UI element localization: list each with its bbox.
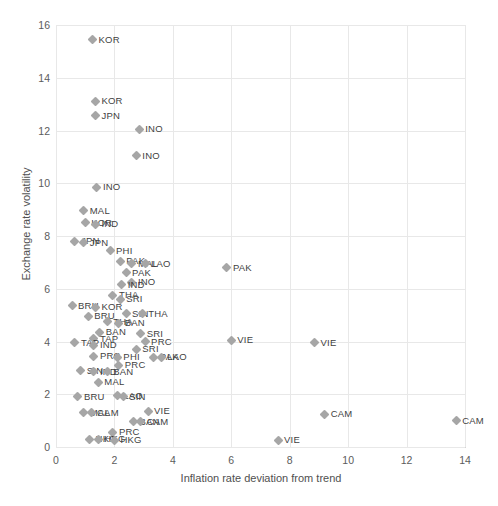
x-tick-label: 14 [445, 454, 485, 466]
figure-container: Exchange rate volatility Inflation rate … [0, 0, 498, 506]
data-point-label: HKG [120, 434, 141, 445]
data-point-label: SRI [142, 343, 158, 354]
y-tick-label: 0 [8, 442, 50, 452]
y-axis-tick-labels: 0246810121416 [0, 0, 50, 506]
data-point-label: SIN [129, 391, 145, 402]
data-point-label: CAM [331, 408, 353, 419]
data-point[interactable] [310, 338, 320, 348]
data-point-label: BRU [84, 391, 105, 402]
data-point-label: INO [103, 181, 121, 192]
data-point-label: VIE [237, 334, 253, 345]
data-point-label: BAN [113, 366, 133, 377]
data-point[interactable] [83, 311, 93, 321]
y-tick-label: 6 [8, 284, 50, 294]
data-point[interactable] [115, 256, 125, 266]
y-tick-label: 16 [8, 20, 50, 30]
y-tick-label: 2 [8, 389, 50, 399]
data-point-label: CAM [97, 407, 119, 418]
x-tick-label: 8 [270, 454, 310, 466]
scatter-plot-area: KORKORJPNINOINOINOMALKORINDJPNJPNPHIPAKM… [56, 25, 465, 447]
data-point-label: BAN [125, 317, 145, 328]
data-point[interactable] [70, 338, 80, 348]
data-point-label: PHI [116, 245, 132, 256]
x-tick-label: 4 [153, 454, 193, 466]
data-point[interactable] [88, 35, 98, 45]
x-tick-label: 2 [94, 454, 134, 466]
x-tick-label: 6 [211, 454, 251, 466]
data-point-label: MAL [104, 376, 124, 387]
data-point-label: VIE [321, 337, 337, 348]
data-point-label: INO [142, 150, 160, 161]
data-point[interactable] [226, 335, 236, 345]
data-point-label: CAM [147, 416, 169, 427]
data-point[interactable] [67, 301, 77, 311]
x-tick-label: 10 [328, 454, 368, 466]
y-tick-label: 4 [8, 337, 50, 347]
data-point[interactable] [273, 435, 283, 445]
y-tick-label: 12 [8, 126, 50, 136]
data-point-label: KOR [101, 95, 122, 106]
gridline-vertical [465, 25, 466, 447]
data-point[interactable] [79, 206, 89, 216]
data-point-label: CAM [462, 415, 484, 426]
data-point-label: THA [148, 308, 168, 319]
data-point-label: VIE [154, 405, 170, 416]
data-point-label: LAO [167, 351, 187, 362]
data-point[interactable] [131, 151, 141, 161]
data-point-label: JPN [90, 237, 109, 248]
x-tick-label: 0 [36, 454, 76, 466]
data-point-label: MAL [90, 205, 110, 216]
data-point[interactable] [320, 409, 330, 419]
gridline-horizontal [56, 131, 465, 132]
gridline-horizontal [56, 78, 465, 79]
data-point-label: JPN [101, 110, 120, 121]
gridline-horizontal [56, 289, 465, 290]
data-point-label: IND [128, 279, 145, 290]
data-point-label: SRI [126, 293, 142, 304]
data-point-label: INO [145, 123, 163, 134]
data-point[interactable] [90, 97, 100, 107]
y-tick-label: 14 [8, 73, 50, 83]
data-point-label: KOR [99, 34, 120, 45]
data-point[interactable] [93, 377, 103, 387]
y-tick-label: 10 [8, 178, 50, 188]
data-point[interactable] [76, 366, 86, 376]
x-tick-label: 12 [387, 454, 427, 466]
data-point-label: IND [101, 218, 118, 229]
data-point-label: IND [100, 339, 117, 350]
gridline-horizontal [56, 447, 465, 448]
y-tick-label: 8 [8, 231, 50, 241]
gridline-horizontal [56, 236, 465, 237]
data-point[interactable] [90, 111, 100, 121]
data-point[interactable] [134, 124, 144, 134]
data-point-label: VIE [284, 434, 300, 445]
x-axis-title: Inflation rate deviation from trend [56, 472, 466, 484]
data-point[interactable] [80, 218, 90, 228]
data-point-label: PAK [233, 262, 252, 273]
data-point[interactable] [143, 406, 153, 416]
data-point[interactable] [89, 351, 99, 361]
data-point[interactable] [451, 416, 461, 426]
gridline-horizontal [56, 25, 465, 26]
data-point-label: LAO [151, 258, 171, 269]
data-point[interactable] [121, 268, 131, 278]
